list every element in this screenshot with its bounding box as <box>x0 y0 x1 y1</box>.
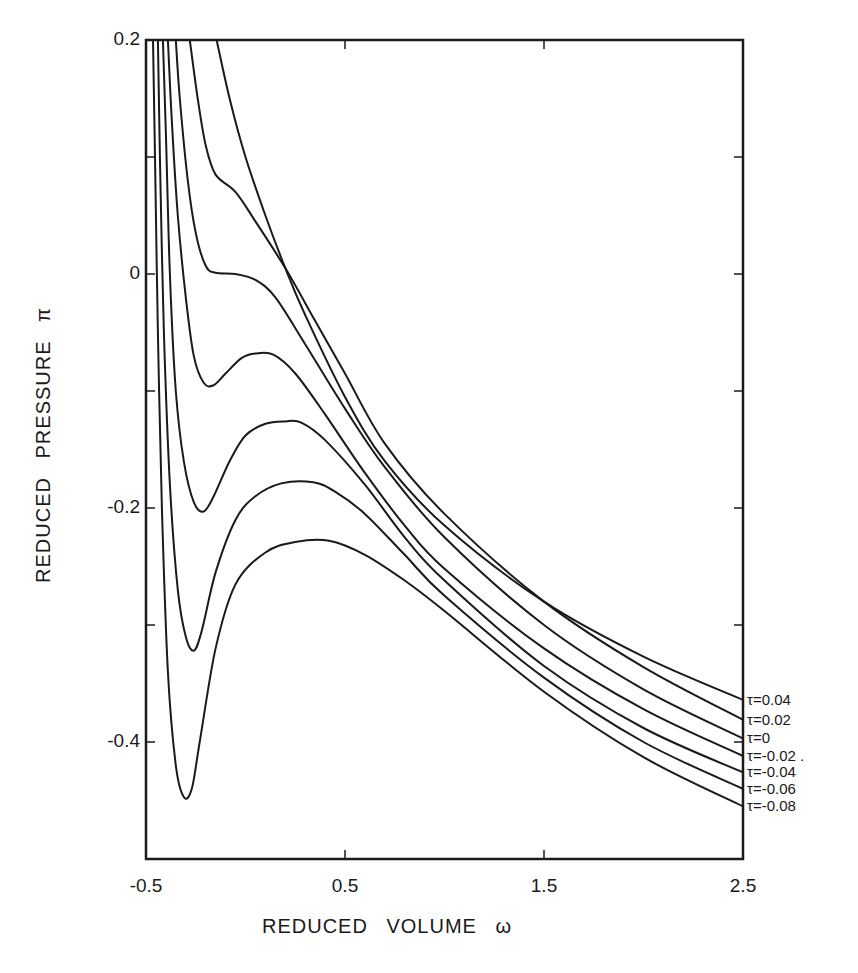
series-label: τ=0.02 <box>747 711 791 728</box>
series-label: τ=0.04 <box>747 691 791 708</box>
x-tick-label: 2.5 <box>713 875 773 897</box>
isotherm-curves <box>153 40 743 806</box>
y-tick-label: -0.2 <box>80 496 140 518</box>
series-label: τ=-0.02 . <box>747 747 804 764</box>
y-axis-title: REDUCED PRESSURE π <box>32 307 55 583</box>
x-tick-label: 0.5 <box>315 875 375 897</box>
isotherm-curve <box>176 40 743 739</box>
y-tick-label: 0.2 <box>80 28 140 50</box>
isotherm-curve <box>217 40 743 700</box>
x-tick-label: 1.5 <box>514 875 574 897</box>
series-label: τ=-0.06 <box>747 780 796 797</box>
isotherm-curve <box>190 40 743 720</box>
series-label: τ=-0.04 <box>747 763 796 780</box>
series-label: τ=-0.08 <box>747 797 796 814</box>
x-tick-label: -0.5 <box>116 875 176 897</box>
isotherm-curve <box>158 40 743 789</box>
isotherm-curve <box>168 40 743 756</box>
x-axis-title: REDUCED VOLUME ω <box>262 915 512 938</box>
isotherm-curve <box>153 40 743 806</box>
isotherm-chart <box>0 0 858 973</box>
series-label: τ=0 <box>747 729 770 746</box>
y-tick-label: 0 <box>80 262 140 284</box>
y-tick-label: -0.4 <box>80 730 140 752</box>
